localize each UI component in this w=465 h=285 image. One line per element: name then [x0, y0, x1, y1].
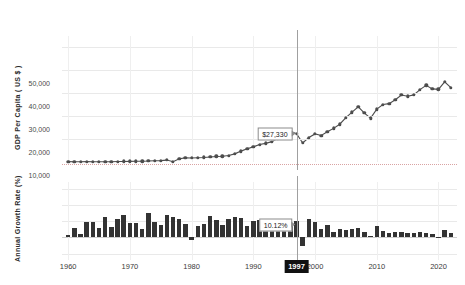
x-tick-label-2000: 2000: [307, 262, 324, 271]
growth-bar: [109, 227, 113, 237]
growth-bar: [140, 229, 144, 237]
gridline-horizontal: [62, 93, 457, 94]
growth-bar: [196, 226, 200, 238]
growth-bar: [449, 233, 453, 237]
zero-axis-line: [62, 237, 457, 238]
gdp-data-point: [91, 160, 94, 163]
growth-bar: [165, 215, 169, 237]
gdp-data-point: [116, 160, 119, 163]
growth-bar: [103, 217, 107, 237]
gridline-vertical: [68, 182, 69, 260]
growth-bar: [393, 232, 397, 237]
crosshair-line-growth: [297, 176, 298, 262]
gridline-vertical: [377, 36, 378, 162]
growth-bar: [338, 229, 342, 237]
growth-bar: [375, 226, 379, 237]
gdp-data-point: [104, 160, 107, 163]
growth-bar: [177, 219, 181, 237]
gdp-y-axis-ticks: 10,00020,00030,00040,00050,000: [0, 36, 58, 162]
growth-bar: [325, 225, 329, 238]
growth-bar: [208, 216, 212, 237]
gdp-data-point: [110, 160, 113, 163]
gdp-value-tooltip: $27,330: [257, 127, 292, 140]
gdp-y-tick-label: 50,000: [29, 80, 50, 87]
growth-bar: [189, 237, 193, 240]
gridline-horizontal: [62, 70, 457, 71]
gdp-baseline: [62, 164, 457, 165]
gridline-vertical: [192, 36, 193, 162]
gdp-y-tick-label: 40,000: [29, 103, 50, 110]
gdp-y-tick-label: 30,000: [29, 126, 50, 133]
growth-bar: [183, 224, 187, 238]
growth-y-axis-ticks: -100102030: [0, 182, 58, 260]
growth-bar: [97, 228, 101, 237]
gdp-data-point: [134, 160, 137, 163]
gdp-data-point: [79, 160, 82, 163]
gridline-horizontal: [62, 116, 457, 117]
growth-bar: [300, 237, 304, 245]
x-tick-label-1990: 1990: [245, 262, 262, 271]
gdp-data-point: [128, 160, 131, 163]
growth-bar: [245, 226, 249, 237]
gdp-data-point: [141, 160, 144, 163]
gridline-vertical: [130, 36, 131, 162]
gridline-vertical: [377, 182, 378, 260]
x-tick-label-1980: 1980: [183, 262, 200, 271]
growth-bar: [128, 223, 132, 237]
growth-bar: [350, 229, 354, 238]
growth-bar: [412, 233, 416, 238]
growth-bar: [134, 223, 138, 237]
gdp-data-point: [66, 160, 69, 163]
growth-bar: [251, 221, 255, 237]
gdp-data-point: [73, 160, 76, 163]
gdp-plot-area: [62, 36, 457, 162]
growth-bar: [313, 222, 317, 237]
growth-bar: [356, 228, 360, 237]
gdp-data-point: [97, 160, 100, 163]
gridline-horizontal: [62, 205, 457, 206]
growth-bar: [121, 215, 125, 237]
growth-bar: [233, 217, 237, 237]
chart-container: GDP Per Capita ( US $ ) 10,00020,00030,0…: [0, 0, 465, 285]
growth-bar: [368, 236, 372, 237]
growth-bar: [381, 231, 385, 237]
gridline-vertical: [438, 182, 439, 260]
crosshair-line-gdp: [297, 30, 298, 170]
x-tick-label-2020: 2020: [430, 262, 447, 271]
growth-bar: [171, 217, 175, 237]
gridline-vertical: [315, 36, 316, 162]
gdp-data-point: [147, 159, 150, 162]
gdp-y-tick-label: 20,000: [29, 149, 50, 156]
gridline-horizontal: [62, 189, 457, 190]
gdp-per-capita-panel: GDP Per Capita ( US $ ) 10,00020,00030,0…: [0, 0, 465, 172]
growth-bar: [331, 232, 335, 237]
growth-bar: [146, 213, 150, 237]
gridline-vertical: [253, 36, 254, 162]
growth-bar: [115, 219, 119, 237]
gridline-horizontal: [62, 254, 457, 255]
growth-bar: [72, 228, 76, 237]
x-tick-label-2010: 2010: [368, 262, 385, 271]
growth-bar: [418, 232, 422, 237]
growth-bar: [159, 225, 163, 238]
growth-bar: [220, 225, 224, 238]
growth-bar: [399, 232, 403, 237]
growth-bar: [442, 230, 446, 237]
growth-bar: [66, 235, 70, 238]
growth-bar: [152, 222, 156, 237]
growth-bar: [214, 220, 218, 237]
growth-bar: [226, 219, 230, 237]
growth-bar: [436, 237, 440, 238]
growth-bar: [202, 224, 206, 237]
gridline-horizontal: [62, 47, 457, 48]
growth-bar: [239, 218, 243, 237]
growth-bar: [424, 233, 428, 238]
gridline-vertical: [438, 36, 439, 162]
x-tick-label-selected[interactable]: 1997: [284, 260, 309, 273]
growth-bar: [307, 219, 311, 238]
gridline-vertical: [68, 36, 69, 162]
gridline-vertical: [315, 182, 316, 260]
growth-bar: [91, 222, 95, 238]
growth-bar: [405, 233, 409, 238]
x-tick-label-1960: 1960: [60, 262, 77, 271]
